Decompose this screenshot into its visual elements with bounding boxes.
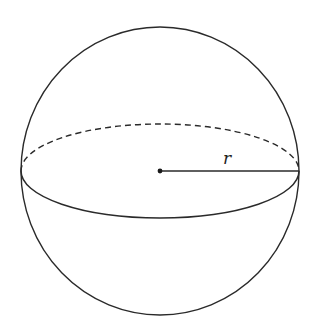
sphere-diagram: r xyxy=(0,0,314,336)
equator-front-solid xyxy=(21,171,299,218)
equator-back-dashed xyxy=(21,124,299,171)
radius-label: r xyxy=(223,148,232,168)
center-point xyxy=(158,169,163,174)
